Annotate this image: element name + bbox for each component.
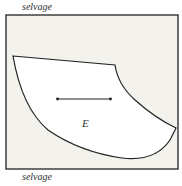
piece-label-e: E	[82, 117, 89, 129]
fabric-diagram	[0, 0, 182, 186]
selvage-bottom-label: selvage	[22, 172, 52, 182]
